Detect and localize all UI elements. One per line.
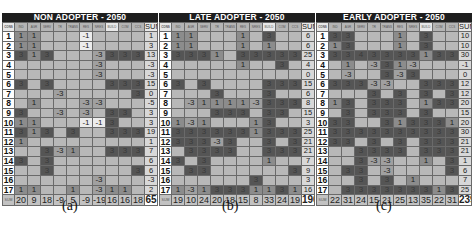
matrix-cell (433, 70, 446, 80)
matrix-cell: 3 (106, 79, 119, 89)
row-label: 9 (317, 108, 329, 118)
row-sum: 21 (302, 137, 315, 147)
matrix-cell: -3 (93, 175, 106, 185)
table-row: 81333313320 (317, 99, 472, 109)
column-sum: 18 (41, 195, 54, 206)
matrix-cell (119, 32, 132, 42)
matrix-cell: 3 (368, 108, 381, 118)
table-row: 211-13 (3, 41, 158, 51)
row-label: 8 (160, 99, 172, 109)
row-sum: 7 (145, 147, 158, 157)
matrix-cell (198, 108, 211, 118)
matrix-cell: -3 (381, 156, 394, 166)
matrix-cell: 3 (381, 175, 394, 185)
matrix-cell (211, 41, 224, 51)
matrix-cell (433, 156, 446, 166)
row-label: 7 (3, 89, 15, 99)
matrix-cell: 3 (342, 137, 355, 147)
matrix-cell (381, 41, 394, 51)
matrix-cell: 3 (289, 166, 302, 176)
matrix-cell (106, 156, 119, 166)
matrix-cell (433, 60, 446, 70)
matrix-cell (106, 89, 119, 99)
column-header: AGR (342, 23, 355, 32)
table-row: 133-313337 (3, 147, 158, 157)
matrix-cell (355, 118, 368, 128)
row-label: 17 (3, 185, 15, 195)
column-header: IND (172, 23, 185, 32)
matrix-cell (28, 175, 41, 185)
matrix-cell (368, 41, 381, 51)
matrix-cell (446, 175, 459, 185)
matrix-cell: 3 (276, 185, 289, 195)
matrix-cell: 3 (407, 51, 420, 61)
matrix-cell (67, 79, 80, 89)
matrix-cell (106, 99, 119, 109)
table-row: 101-31133 (160, 118, 315, 128)
matrix-cell: 3 (263, 108, 276, 118)
row-sum: 3 (145, 108, 158, 118)
matrix-cell: -3 (381, 166, 394, 176)
table-row: 50 (160, 70, 315, 80)
matrix-cell: 3 (381, 70, 394, 80)
grand-total: 239 (459, 195, 472, 206)
matrix-cell (276, 70, 289, 80)
row-label: 13 (317, 147, 329, 157)
matrix-cell: 3 (41, 156, 54, 166)
row-label: 10 (3, 118, 15, 128)
matrix-cell (28, 79, 41, 89)
table-row: 11313333319 (3, 127, 158, 137)
column-header: TRANS (67, 23, 80, 32)
matrix-cell: 3 (41, 166, 54, 176)
row-sum: 1 (459, 156, 472, 166)
matrix-cell: 3 (420, 79, 433, 89)
matrix-cell: 3 (106, 108, 119, 118)
matrix-cell (172, 89, 185, 99)
matrix-cell (276, 175, 289, 185)
matrix-cell (224, 156, 237, 166)
matrix-cell: 3 (276, 147, 289, 157)
matrix-cell: 3 (289, 99, 302, 109)
table-row: 4134 (160, 60, 315, 70)
matrix-cell (119, 60, 132, 70)
matrix-cell: 3 (132, 127, 145, 137)
row-label: 11 (160, 127, 172, 137)
matrix-cell (224, 79, 237, 89)
matrix-cell (80, 127, 93, 137)
matrix-cell (119, 99, 132, 109)
matrix-cell (132, 175, 145, 185)
matrix-cell (394, 166, 407, 176)
matrix-cell (381, 32, 394, 42)
matrix-cell: 1 (211, 99, 224, 109)
row-label: 9 (160, 108, 172, 118)
matrix-cell (250, 70, 263, 80)
column-header: CCS (446, 23, 459, 32)
row-label: 11 (3, 127, 15, 137)
column-header: CCS (132, 23, 145, 32)
matrix-cell (446, 70, 459, 80)
matrix-cell (224, 32, 237, 42)
row-sum: 3 (302, 118, 315, 128)
table-row: 12333333321 (317, 137, 472, 147)
row-label: 12 (160, 137, 172, 147)
matrix-cell: 3 (446, 89, 459, 99)
matrix-cell: 3 (132, 147, 145, 157)
matrix-cell (185, 70, 198, 80)
matrix-cell (67, 166, 80, 176)
row-sum: 21 (459, 147, 472, 157)
matrix-cell (93, 89, 106, 99)
matrix-cell: 3 (211, 108, 224, 118)
column-sum: -19 (93, 195, 106, 206)
caption-b: (b) (222, 198, 238, 214)
matrix-cell: 3 (381, 108, 394, 118)
matrix-cell: 3 (420, 41, 433, 51)
matrix-cell (407, 156, 420, 166)
table-row: 6333-3-333312 (317, 79, 472, 89)
matrix-cell (132, 41, 145, 51)
row-label: 4 (317, 60, 329, 70)
matrix-cell (54, 156, 67, 166)
column-header: SERV (198, 23, 211, 32)
matrix-cell (263, 166, 276, 176)
matrix-cell (407, 89, 420, 99)
matrix-cell: -3 (93, 60, 106, 70)
